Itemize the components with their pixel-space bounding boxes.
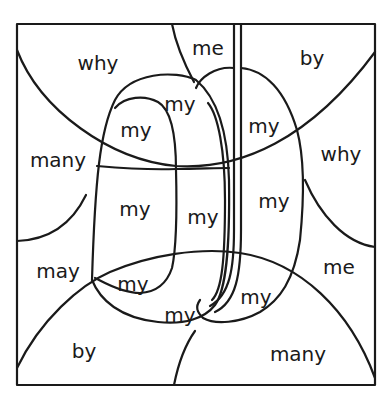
- region-label-my-6[interactable]: my: [258, 191, 289, 211]
- region-label-many-left[interactable]: many: [30, 150, 86, 170]
- many-lower-arc: [17, 195, 86, 241]
- puzzle-lines: [0, 0, 388, 403]
- region-label-me-right[interactable]: me: [323, 257, 355, 277]
- region-label-by-top-right[interactable]: by: [300, 48, 325, 68]
- region-label-my-5[interactable]: my: [187, 207, 218, 227]
- region-label-why-right[interactable]: why: [321, 144, 362, 164]
- region-label-my-3[interactable]: my: [248, 116, 279, 136]
- region-label-my-4[interactable]: my: [119, 199, 150, 219]
- region-label-many-bottom-right[interactable]: many: [270, 344, 326, 364]
- left-ring-divider: [97, 166, 229, 169]
- region-label-my-2[interactable]: my: [120, 120, 151, 140]
- region-label-my-8[interactable]: my: [164, 305, 195, 325]
- region-label-my-9[interactable]: my: [240, 287, 271, 307]
- region-label-my-1[interactable]: my: [164, 94, 195, 114]
- bottom-divider: [174, 331, 195, 385]
- region-label-me-top[interactable]: me: [192, 38, 224, 58]
- axle-edge: [208, 103, 225, 300]
- region-label-may-left[interactable]: may: [36, 261, 80, 281]
- why-me-arc: [305, 180, 375, 247]
- region-label-my-7[interactable]: my: [117, 274, 148, 294]
- coloring-puzzle: why me by my my my many why my my my may…: [0, 0, 388, 403]
- region-label-by-bottom-left[interactable]: by: [72, 341, 97, 361]
- me-divider: [172, 24, 194, 82]
- region-label-why-top-left[interactable]: why: [78, 53, 119, 73]
